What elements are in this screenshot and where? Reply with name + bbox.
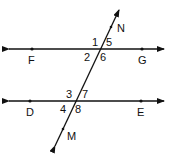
- point-e: [139, 99, 142, 102]
- angle-6: 6: [100, 51, 106, 63]
- angle-3: 3: [66, 88, 72, 100]
- angle-4: 4: [60, 103, 66, 115]
- angle-1: 1: [92, 36, 98, 48]
- label-n: N: [117, 22, 125, 34]
- label-f: F: [28, 54, 35, 66]
- angle-2: 2: [84, 51, 90, 63]
- parallel-lines-diagram: N F G D E M 1 5 2 6 3 7 4 8: [0, 0, 172, 157]
- point-f: [30, 47, 33, 50]
- point-d: [28, 99, 31, 102]
- point-n: [110, 26, 113, 29]
- angle-7: 7: [82, 88, 88, 100]
- transversal-mn: [55, 10, 119, 146]
- label-g: G: [138, 54, 147, 66]
- point-m: [62, 128, 65, 131]
- point-g: [140, 47, 143, 50]
- label-m: M: [67, 130, 76, 142]
- label-e: E: [137, 106, 144, 118]
- angle-8: 8: [75, 103, 81, 115]
- angle-5: 5: [106, 36, 112, 48]
- label-d: D: [26, 106, 34, 118]
